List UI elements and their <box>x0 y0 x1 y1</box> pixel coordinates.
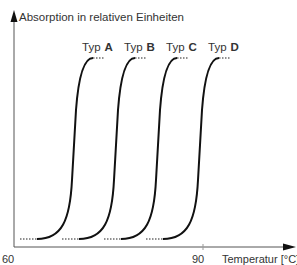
series-label-prefix: Typ <box>82 41 101 53</box>
y-axis-label: Absorption in relativen Einheiten <box>19 11 184 23</box>
svg-text:TypB: TypB <box>124 41 155 53</box>
x-tick-label-90: 90 <box>192 253 204 265</box>
series-label-letter: B <box>147 41 155 53</box>
svg-text:TypA: TypA <box>82 41 113 53</box>
x-axis-arrow-icon <box>283 244 296 251</box>
series-label-prefix: Typ <box>208 41 227 53</box>
x-axis-label: Temperatur [°C] <box>222 253 297 265</box>
series-typ-c: TypC <box>104 41 197 239</box>
series-label-letter: C <box>189 41 197 53</box>
series-typ-b: TypB <box>62 41 155 239</box>
series-typ-a: TypA <box>20 41 113 239</box>
absorption-chart: Absorption in relativen Einheiten Temper… <box>0 0 297 265</box>
series-label-letter: D <box>231 41 239 53</box>
y-axis-arrow-icon <box>11 10 18 22</box>
x-tick-label-60: 60 <box>2 253 14 265</box>
series-label-prefix: Typ <box>124 41 143 53</box>
svg-text:TypC: TypC <box>166 41 197 53</box>
svg-text:TypD: TypD <box>208 41 239 53</box>
series-typ-d: TypD <box>146 41 239 239</box>
series-label-letter: A <box>105 41 113 53</box>
series-label-prefix: Typ <box>166 41 185 53</box>
